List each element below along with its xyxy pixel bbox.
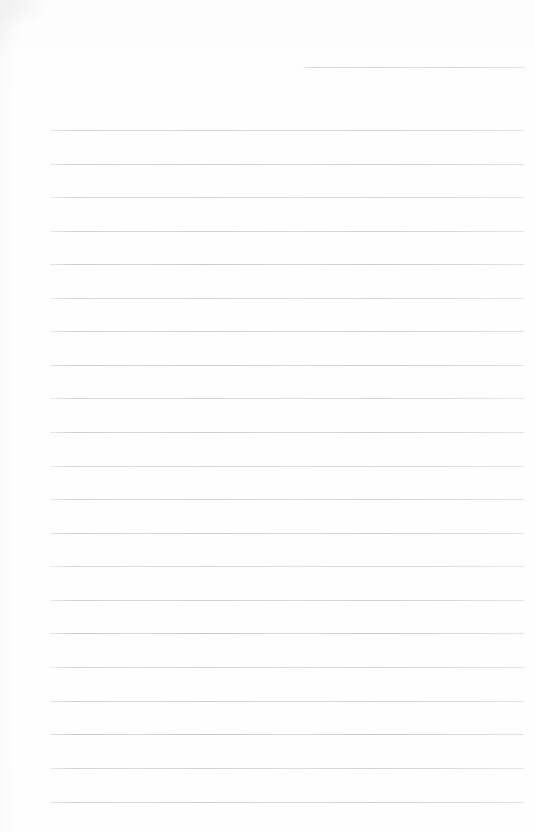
ruled-line-ink-variation	[50, 197, 524, 198]
ruled-line	[50, 432, 524, 433]
ruled-line	[50, 466, 524, 467]
ruled-line	[50, 533, 524, 534]
ruled-line-ink-variation	[50, 734, 524, 735]
ruled-line	[50, 398, 524, 399]
ruled-line	[50, 768, 524, 769]
left-edge-shadow	[0, 0, 14, 832]
ruled-line-ink-variation	[50, 432, 524, 433]
ruled-line-ink-variation	[303, 67, 525, 68]
ruled-line-ink-variation	[50, 264, 524, 265]
ruled-line	[50, 164, 524, 165]
ruled-line	[50, 667, 524, 668]
ruled-line	[50, 231, 524, 232]
ruled-line	[50, 130, 524, 131]
ruled-line	[50, 701, 524, 702]
ruled-line-ink-variation	[50, 466, 524, 467]
ruled-line	[50, 264, 524, 265]
ruled-line-ink-variation	[50, 331, 524, 332]
ruled-line	[50, 197, 524, 198]
ruled-line	[50, 633, 524, 634]
ruled-line-ink-variation	[50, 768, 524, 769]
ruled-line-ink-variation	[50, 600, 524, 601]
ruled-line-ink-variation	[50, 802, 524, 803]
ruled-line-ink-variation	[50, 298, 524, 299]
ruled-line-ink-variation	[50, 701, 524, 702]
ruled-line	[50, 331, 524, 332]
ruled-line	[50, 365, 524, 366]
corner-smudge-artifact	[0, 0, 92, 73]
ruled-line-ink-variation	[50, 130, 524, 131]
ruled-line-ink-variation	[50, 365, 524, 366]
ruled-line	[50, 499, 524, 500]
ruled-line	[50, 298, 524, 299]
ruled-line-ink-variation	[50, 164, 524, 165]
ruled-line	[50, 734, 524, 735]
ruled-line-ink-variation	[50, 231, 524, 232]
ruled-line-ink-variation	[50, 398, 524, 399]
ruled-line-ink-variation	[50, 499, 524, 500]
ruled-line	[50, 566, 524, 567]
ruled-line-ink-variation	[50, 533, 524, 534]
ruled-line	[50, 802, 524, 803]
ruled-line-ink-variation	[50, 566, 524, 567]
ruled-line-ink-variation	[50, 633, 524, 634]
ruled-line-partial	[303, 67, 525, 68]
scanned-page	[0, 0, 535, 832]
paper-grain	[0, 0, 535, 832]
ruled-line	[50, 600, 524, 601]
ruled-line-ink-variation	[50, 667, 524, 668]
